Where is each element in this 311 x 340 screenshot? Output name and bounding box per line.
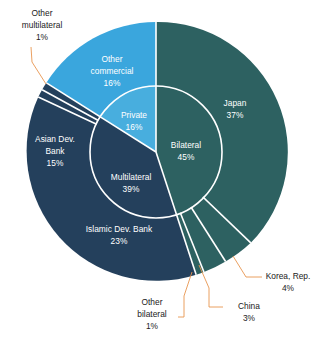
- label-asian-name-line1: Asian Dev.: [35, 134, 75, 144]
- label-other-multilateral-pct: 1%: [36, 32, 49, 42]
- label-asian-pct: 15%: [47, 158, 64, 168]
- label-islamic-pct: 23%: [111, 236, 128, 246]
- label-islamic-name: Islamic Dev. Bank: [86, 224, 153, 234]
- label-multilateral-pct: 39%: [123, 184, 140, 194]
- leader-line-other-bilateral: [178, 272, 192, 317]
- label-korea-name: Korea, Rep.: [266, 271, 311, 281]
- label-other-commercial-line2: commercial: [91, 66, 134, 76]
- label-other-commercial-pct: 16%: [104, 78, 121, 88]
- label-other-commercial-line1: Other: [102, 54, 123, 64]
- label-japan-name: Japan: [224, 98, 247, 108]
- label-other-bilateral-line1: Other: [142, 297, 163, 307]
- leader-line-other-multilateral: [31, 47, 46, 84]
- leader-line-korea: [233, 256, 262, 277]
- label-private-pct: 16%: [126, 122, 143, 132]
- label-asian-name-line2: Bank: [45, 146, 65, 156]
- label-other-bilateral-pct: 1%: [146, 321, 159, 331]
- label-other-multilateral-line2: multilateral: [22, 20, 63, 30]
- label-bilateral-pct: 45%: [178, 152, 195, 162]
- pie-chart-svg: Japan 37% Islamic Dev. Bank 23% Asian De…: [0, 0, 311, 340]
- label-other-bilateral-line2: bilateral: [137, 309, 166, 319]
- pie-chart-figure: Japan 37% Islamic Dev. Bank 23% Asian De…: [0, 0, 311, 340]
- label-china-pct: 3%: [243, 313, 256, 323]
- label-other-multilateral-line1: Other: [32, 8, 53, 18]
- label-china-name: China: [238, 301, 260, 311]
- label-multilateral-name: Multilateral: [111, 172, 152, 182]
- label-private-name: Private: [121, 110, 147, 120]
- label-bilateral-name: Bilateral: [171, 140, 201, 150]
- label-korea-pct: 4%: [282, 283, 295, 293]
- label-japan-pct: 37%: [227, 110, 244, 120]
